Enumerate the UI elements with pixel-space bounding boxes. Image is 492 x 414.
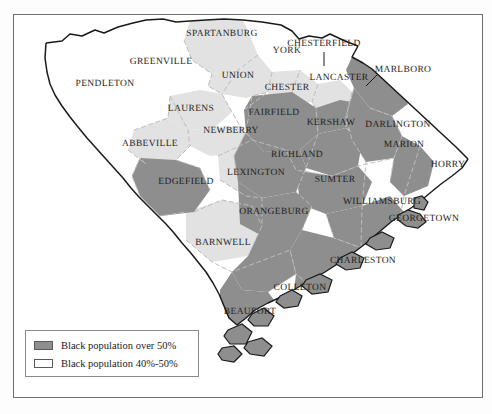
county-label-pendleton: PENDLETON	[76, 79, 135, 89]
legend-swatch-over-50	[34, 341, 53, 350]
legend-row-40-50: Black population 40%-50%	[34, 354, 190, 372]
county-label-edgefield: EDGEFIELD	[158, 177, 213, 187]
county-label-chesterfield: CHESTERFIELD	[287, 39, 360, 49]
legend-swatch-40-50	[34, 359, 53, 368]
county-label-lancaster: LANCASTER	[309, 73, 368, 83]
county-label-orangeburg: ORANGEBURG	[239, 207, 308, 217]
county-label-lexington: LEXINGTON	[227, 168, 285, 178]
county-label-horry: HORRY	[431, 160, 465, 170]
county-label-colleton: COLLETON	[274, 283, 327, 293]
county-label-fairfield: FAIRFIELD	[248, 108, 299, 118]
county-label-richland: RICHLAND	[271, 150, 323, 160]
county-label-williamsburg: WILLIAMSBURG	[343, 197, 421, 207]
map-legend: Black population over 50% Black populati…	[25, 330, 199, 377]
map-figure: SPARTANBURGYORKCHESTERFIELDGREENVILLEMAR…	[0, 0, 492, 414]
county-label-beaufort: BEAUFORT	[224, 307, 276, 317]
county-label-georgetown: GEORGETOWN	[389, 214, 459, 224]
county-label-spartanburg: SPARTANBURG	[186, 29, 257, 39]
county-label-union: UNION	[222, 71, 254, 81]
county-label-chester: CHESTER	[265, 83, 310, 93]
county-label-marion: MARION	[384, 140, 425, 150]
county-label-kershaw: KERSHAW	[307, 118, 356, 128]
county-label-abbeville: ABBEVILLE	[122, 139, 178, 149]
county-label-newberry: NEWBERRY	[203, 126, 259, 136]
county-label-laurens: LAURENS	[168, 104, 214, 114]
county-label-charleston: CHARLESTON	[330, 256, 396, 266]
legend-row-over-50: Black population over 50%	[34, 336, 190, 354]
legend-label-40-50: Black population 40%-50%	[61, 358, 178, 369]
legend-label-over-50: Black population over 50%	[61, 340, 176, 351]
county-label-barnwell: BARNWELL	[195, 238, 251, 248]
county-label-darlington: DARLINGTON	[365, 120, 431, 130]
county-label-greenville: GREENVILLE	[130, 57, 193, 67]
county-label-sumter: SUMTER	[315, 175, 356, 185]
county-label-marlboro: MARLBORO	[375, 65, 432, 75]
